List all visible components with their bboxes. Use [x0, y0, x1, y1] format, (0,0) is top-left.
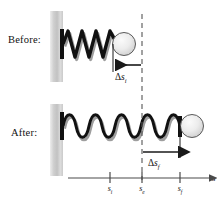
- spring-anchor-after: [60, 112, 64, 140]
- position-axis: [68, 172, 209, 183]
- ball-before: [113, 33, 136, 56]
- spring-displacement-figure: Before: After: Δsi Δsf s si se sf: [0, 0, 224, 202]
- before-panel: [50, 11, 141, 82]
- figure-canvas: [0, 0, 224, 202]
- after-panel: [50, 104, 204, 176]
- ball-after: [181, 115, 204, 138]
- spring-anchor-before: [60, 29, 64, 59]
